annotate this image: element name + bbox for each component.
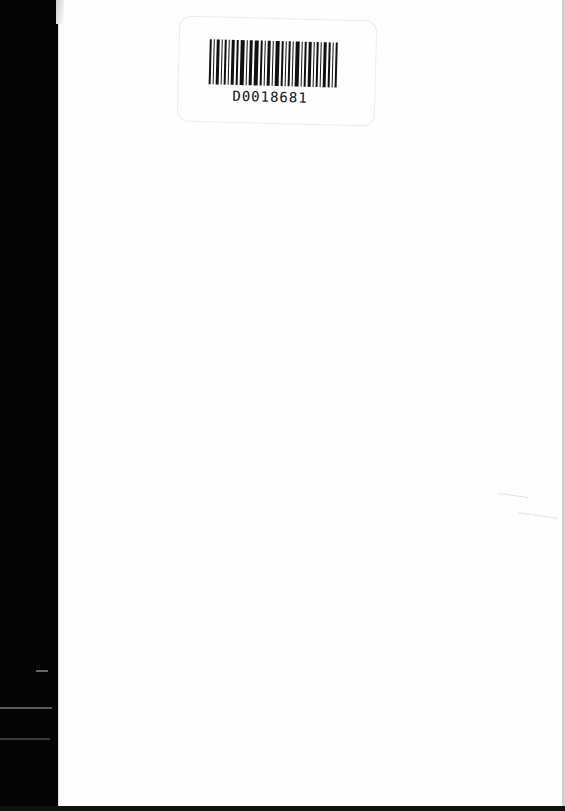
edge-line [0,738,50,740]
barcode-icon [209,39,356,88]
edge-line [36,670,48,672]
edge-line [0,707,52,709]
scan-left-margin [0,0,60,811]
page-corner [56,0,64,24]
smudge [498,493,528,498]
barcode-sticker: D0018681 [177,15,378,126]
smudge [518,512,558,519]
scan-bottom-edge [0,806,565,811]
barcode-number: D0018681 [232,88,308,106]
